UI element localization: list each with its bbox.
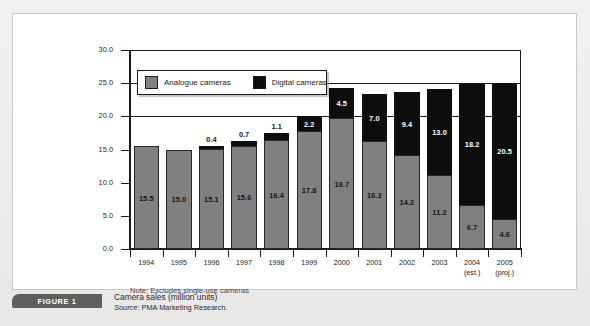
bar-segment-digital: 2.2 [297,116,322,131]
bar-column: 6.718.2 [459,84,484,249]
x-tick-sublabel: (est.) [456,268,489,278]
bar-segment-analogue: 16.4 [264,140,289,249]
x-tick-year: 1998 [269,258,285,267]
bar-value-analogue: 19.7 [330,180,353,189]
bar-value-digital: 13.0 [428,128,451,137]
bar-column: 11.213.0 [427,88,452,249]
y-tick-label: 10.0 [79,178,121,188]
x-tick-year: 2005 [497,258,513,267]
x-tick-label: 2004(est.) [456,258,489,278]
x-tick-mark [260,250,261,257]
bar-value-digital: 7.0 [363,114,386,123]
bar-segment-digital: 7.0 [362,94,387,140]
legend-item-analogue: Analogue cameras [145,76,231,89]
bar-column: 19.74.5 [329,88,354,249]
bar-segment-analogue: 15.6 [231,146,256,249]
bar-value-analogue: 6.7 [460,223,483,232]
x-tick-label: 1997 [228,258,261,268]
x-tick-year: 2004 [464,258,480,267]
x-tick-mark [326,250,327,257]
bar-value-analogue: 16.4 [265,191,288,200]
y-tick-value: 30.0 [79,45,113,54]
bar-segment-analogue: 15.5 [134,146,159,249]
bar-value-digital: 1.1 [264,122,289,131]
legend-swatch-digital-icon [253,76,266,89]
x-tick-mark [521,250,522,257]
bar-value-digital: 0.7 [231,130,256,139]
x-tick-label: 2002 [391,258,424,268]
bar-segment-digital: 18.2 [459,84,484,205]
y-tick-label: 15.0 [79,145,121,155]
bar-value-digital: 20.5 [493,147,516,156]
y-tick-label: 25.0 [79,78,121,88]
x-tick-year: 1994 [138,258,154,267]
legend-label-digital: Digital cameras [272,78,327,87]
bar-value-analogue: 14.2 [395,198,418,207]
x-tick-mark [423,250,424,257]
bar-value-analogue: 15.1 [200,195,223,204]
bar-segment-analogue: 16.3 [362,141,387,249]
source-word: Source [114,303,137,312]
y-tick-value: 20.0 [79,111,113,120]
bar-value-digital: 0.4 [199,135,224,144]
source-detail: : PMA Marketing Research. [137,303,227,312]
figure-caption-source: Source: PMA Marketing Research. [114,303,544,313]
bar-segment-analogue: 19.7 [329,118,354,249]
bar-value-analogue: 15.5 [135,194,158,203]
bar-column: 15.5 [134,146,159,249]
legend-swatch-analogue-icon [145,76,158,89]
bar-segment-analogue: 15.0 [166,150,191,250]
x-tick-mark [195,250,196,257]
bar-value-analogue: 17.8 [298,186,321,195]
figure-root: 0.05.010.015.020.025.030.0 15.515.015.10… [0,0,590,326]
x-tick-label: 2005(proj.) [488,258,521,278]
x-tick-year: 1996 [203,258,219,267]
x-tick-year: 2002 [399,258,415,267]
x-axis-labels: 1994199519961997199819992000200120022003… [130,258,521,284]
bar-segment-digital: 20.5 [492,83,517,219]
bar-segment-digital [199,146,224,149]
x-tick-mark [130,250,131,257]
y-tick-label: 30.0 [79,45,121,55]
bar-segment-analogue: 11.2 [427,175,452,249]
x-tick-mark [228,250,229,257]
legend-label-analogue: Analogue cameras [164,78,231,87]
bar-value-digital: 4.5 [330,99,353,108]
x-tick-label: 1999 [293,258,326,268]
bar-value-digital: 18.2 [460,140,483,149]
bar-column: 14.29.4 [394,92,419,249]
bar-column: 15.60.7 [231,141,256,249]
bar-segment-digital: 9.4 [394,92,419,154]
bar-segment-analogue: 6.7 [459,205,484,249]
chart-legend: Analogue cameras Digital cameras [137,70,327,95]
x-tick-mark [488,250,489,257]
bar-column: 16.41.1 [264,133,289,249]
x-tick-label: 1994 [130,258,163,268]
bar-value-digital: 9.4 [395,120,418,129]
y-tick-label: 20.0 [79,111,121,121]
figure-caption-title: Camera sales (million units) [114,292,544,303]
x-tick-year: 2001 [366,258,382,267]
y-tick-value: 15.0 [79,145,113,154]
legend-item-digital: Digital cameras [253,76,327,89]
bar-segment-analogue: 15.1 [199,149,224,249]
x-tick-year: 2000 [334,258,350,267]
figure-number-tab: FIGURE 1 [12,294,102,308]
bar-value-analogue: 11.2 [428,208,451,217]
x-tick-year: 1997 [236,258,252,267]
bar-value-analogue: 16.3 [363,191,386,200]
x-tick-mark [391,250,392,257]
bar-value-analogue: 15.6 [232,193,255,202]
bar-segment-analogue: 17.8 [297,131,322,249]
y-tick-label: 5.0 [79,211,121,221]
bar-segment-digital: 13.0 [427,89,452,175]
x-tick-year: 1995 [171,258,187,267]
x-tick-label: 1995 [163,258,196,268]
x-tick-label: 2001 [358,258,391,268]
x-tick-sublabel: (proj.) [488,268,521,278]
x-tick-label: 1996 [195,258,228,268]
bar-column: 15.0 [166,150,191,250]
bar-column: 15.10.4 [199,146,224,249]
figure-number-label: FIGURE 1 [38,297,77,306]
x-tick-label: 1998 [260,258,293,268]
